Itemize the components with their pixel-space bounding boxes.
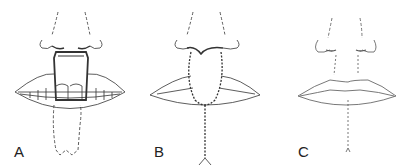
panel-label-c: C	[298, 143, 309, 160]
panel-c: C	[270, 0, 407, 167]
illustration-a	[0, 0, 135, 167]
panel-label-a: A	[14, 143, 24, 160]
illustration-c	[270, 0, 407, 167]
panel-a: A	[0, 0, 135, 167]
panel-b: B	[135, 0, 270, 167]
illustration-b	[135, 0, 270, 167]
panel-label-b: B	[154, 143, 164, 160]
